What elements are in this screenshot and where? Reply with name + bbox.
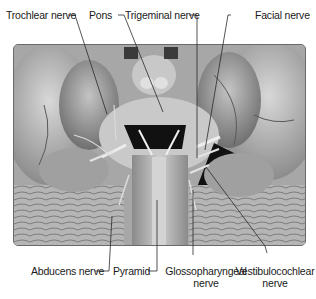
label-vestibulocochlear-line2: nerve (234, 277, 316, 289)
brainstem-photograph (13, 44, 306, 246)
label-abducens-nerve: Abducens nerve (31, 265, 104, 277)
anatomy-figure: Trochlear nerve Pons Trigeminal nerve Fa… (0, 0, 316, 299)
label-trochlear-nerve: Trochlear nerve (6, 9, 76, 21)
label-vestibulocochlear-nerve: Vestibulocochlear nerve (234, 265, 316, 289)
label-facial-nerve: Facial nerve (255, 9, 310, 21)
label-vestibulocochlear-line1: Vestibulocochlear (234, 265, 316, 277)
label-trigeminal-nerve: Trigeminal nerve (125, 9, 200, 21)
label-pons: Pons (89, 9, 112, 21)
label-pyramid: Pyramid (113, 265, 150, 277)
